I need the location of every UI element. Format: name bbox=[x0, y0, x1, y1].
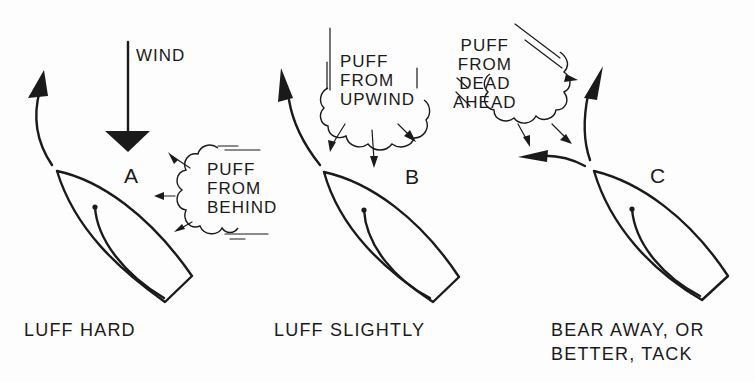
sailing-diagram: WIND A PUFF FROM BEHIND LUFF HARD B PUFF… bbox=[0, 0, 755, 382]
panel-b-letter: B bbox=[405, 167, 419, 186]
panel-b-turn-arrow-icon bbox=[278, 68, 320, 165]
panel-c-letter: C bbox=[650, 166, 665, 185]
panel-b-boat-icon bbox=[324, 172, 459, 302]
wind-label: WIND bbox=[136, 46, 185, 65]
panel-c-puff-label: PUFF FROM DEAD AHEAD bbox=[453, 36, 517, 112]
panel-a-caption: LUFF HARD bbox=[24, 318, 136, 342]
panel-b-caption: LUFF SLIGHTLY bbox=[274, 318, 425, 342]
panel-c-caption: BEAR AWAY, OR BETTER, TACK bbox=[551, 318, 705, 366]
panel-b-puff-label: PUFF FROM UPWIND bbox=[340, 52, 415, 109]
panel-a-turn-arrow-icon bbox=[28, 70, 52, 165]
panel-a-boat-icon bbox=[57, 171, 192, 302]
panel-a-letter: A bbox=[124, 166, 138, 185]
panel-c-tack-arrow-icon bbox=[518, 150, 585, 166]
panel-c-bear-away-arrow-icon bbox=[584, 66, 603, 160]
panel-c-boat-icon bbox=[594, 171, 728, 300]
panel-a-puff-label: PUFF FROM BEHIND bbox=[207, 160, 277, 217]
